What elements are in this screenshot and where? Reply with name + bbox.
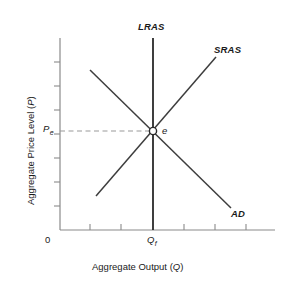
sras-curve-label: SRAS bbox=[214, 45, 241, 55]
x-axis-title: Aggregate Output (Q) bbox=[92, 262, 183, 272]
x-axis-title-text: Aggregate Output ( bbox=[92, 261, 173, 272]
y-axis-title-text: Aggregate Price Level ( bbox=[25, 106, 36, 205]
ad-curve-label: AD bbox=[231, 209, 245, 219]
equilibrium-price-subscript: e bbox=[50, 129, 54, 136]
equilibrium-price-symbol: P bbox=[43, 123, 49, 134]
lras-curve-label: LRAS bbox=[138, 22, 165, 32]
full-employment-output-subscript: f bbox=[155, 240, 157, 247]
equilibrium-price-tick-label: Pe bbox=[43, 124, 53, 134]
full-employment-output-tick-label: Qf bbox=[147, 235, 156, 245]
x-axis-ticks bbox=[90, 224, 246, 230]
axis-lines bbox=[60, 38, 275, 230]
full-employment-output-symbol: Q bbox=[147, 234, 154, 245]
x-axis-title-close: ) bbox=[180, 261, 183, 272]
equilibrium-point-label: e bbox=[162, 126, 167, 136]
ad-curve bbox=[90, 70, 231, 208]
y-axis-title: Aggregate Price Level (P) bbox=[26, 96, 36, 205]
aggregate-supply-demand-figure: LRAS SRAS AD e Pe Qf 0 Aggregate Price L… bbox=[0, 0, 289, 283]
equilibrium-point-marker bbox=[149, 127, 156, 134]
plot-area bbox=[0, 0, 289, 283]
y-axis-title-close: ) bbox=[25, 96, 36, 99]
origin-label: 0 bbox=[45, 235, 50, 245]
y-axis-title-variable: P bbox=[25, 99, 36, 105]
y-axis-ticks bbox=[54, 62, 60, 206]
